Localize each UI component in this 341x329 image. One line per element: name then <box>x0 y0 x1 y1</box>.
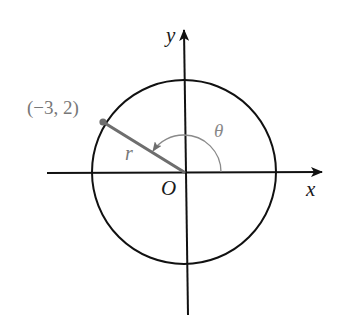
point-marker <box>99 118 106 125</box>
polar-coordinate-diagram: (−3, 2) r θ O x y <box>0 0 341 329</box>
origin-label: O <box>161 178 176 199</box>
radius-segment <box>103 122 184 172</box>
point-label: (−3, 2) <box>27 98 79 117</box>
radius-label: r <box>125 143 133 163</box>
angle-arc <box>153 135 221 172</box>
y-axis-label: y <box>166 25 175 46</box>
x-axis-label: x <box>306 179 315 200</box>
diagram-canvas <box>0 0 341 329</box>
angle-label: θ <box>214 121 223 140</box>
